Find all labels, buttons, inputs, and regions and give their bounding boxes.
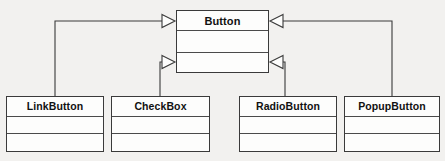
class-operations-compartment <box>240 134 336 151</box>
hollow-triangle-arrowhead-popupbutton <box>270 15 283 28</box>
class-operations-compartment <box>112 134 209 151</box>
class-name-label: RadioButton <box>256 100 320 112</box>
class-attributes-compartment <box>240 117 336 135</box>
class-name-compartment: LinkButton <box>7 97 103 117</box>
generalization-linkbutton-to-button[interactable] <box>55 15 175 97</box>
class-name-compartment: CheckBox <box>112 97 209 117</box>
class-name-label: CheckBox <box>134 100 186 112</box>
class-name-compartment: Button <box>177 11 268 31</box>
class-name-compartment: RadioButton <box>240 97 336 117</box>
hollow-triangle-arrowhead-checkbox <box>162 56 175 69</box>
generalization-popupbutton-to-button[interactable] <box>270 15 392 97</box>
class-attributes-compartment <box>112 117 209 135</box>
class-operations-compartment <box>177 53 268 72</box>
connector-line-popupbutton <box>283 21 392 96</box>
uml-class-radiobutton[interactable]: RadioButton <box>239 96 337 152</box>
class-attributes-compartment <box>345 117 439 135</box>
generalization-radiobutton-to-button[interactable] <box>270 56 285 97</box>
uml-class-popupbutton[interactable]: PopupButton <box>344 96 440 152</box>
class-attributes-compartment <box>177 31 268 53</box>
class-operations-compartment <box>7 134 103 151</box>
generalization-checkbox-to-button[interactable] <box>160 56 175 97</box>
connector-line-linkbutton <box>55 21 162 96</box>
uml-class-linkbutton[interactable]: LinkButton <box>6 96 104 152</box>
hollow-triangle-arrowhead-linkbutton <box>162 15 175 28</box>
class-name-compartment: PopupButton <box>345 97 439 117</box>
uml-class-diagram: Button LinkButton CheckBox RadioButton P… <box>0 0 445 161</box>
uml-class-button[interactable]: Button <box>176 10 269 73</box>
class-attributes-compartment <box>7 117 103 135</box>
class-name-label: Button <box>204 15 240 27</box>
class-name-label: PopupButton <box>358 100 426 112</box>
hollow-triangle-arrowhead-radiobutton <box>270 56 283 69</box>
class-operations-compartment <box>345 134 439 151</box>
class-name-label: LinkButton <box>27 100 83 112</box>
uml-class-checkbox[interactable]: CheckBox <box>111 96 210 152</box>
